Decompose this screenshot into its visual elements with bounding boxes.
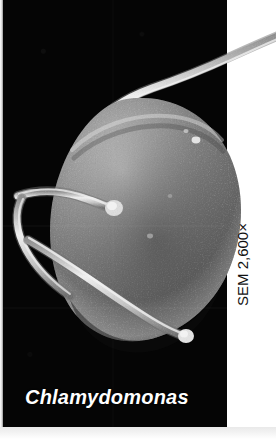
micrograph-figure: Chlamydomonas SEM 2,600×: [0, 0, 276, 439]
magnification-label: SEM 2,600×: [234, 176, 251, 306]
micrograph-plate: [3, 0, 227, 427]
figure-caption: Chlamydomonas: [25, 386, 189, 409]
page-bottom-edge: [0, 427, 276, 439]
plate-grain-texture: [3, 0, 227, 427]
